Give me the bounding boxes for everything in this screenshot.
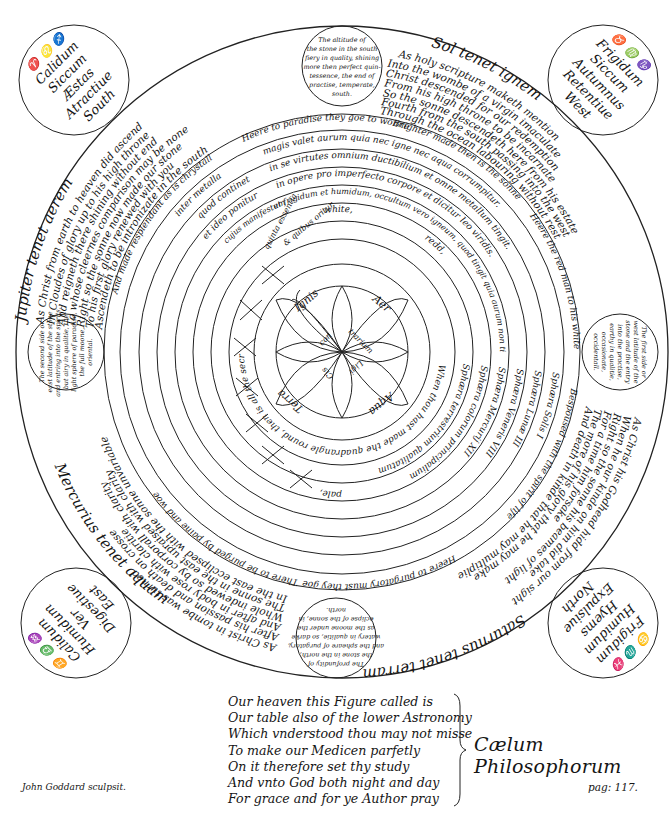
- svg-text:and the spheare of purgatory,: and the spheare of purgatory,: [288, 642, 384, 650]
- svg-text:and entring into the spirits,: and entring into the spirits,: [54, 307, 62, 396]
- element-aqua: Aqua: [366, 389, 397, 418]
- page-number: pag: 117.: [588, 781, 638, 793]
- svg-text:as the moone under the: as the moone under the: [297, 624, 374, 632]
- svg-text:occidentall.: occidentall.: [592, 333, 600, 371]
- svg-text:north.: north.: [326, 606, 346, 614]
- svg-text:south.: south.: [332, 90, 352, 98]
- caelum-philosophorum-figure: Sol tenet ignem Jupiter tenet aerem Satu…: [0, 0, 670, 815]
- verse-band-lower-left: As Christ in tombe was turned After his …: [97, 435, 289, 655]
- svg-text:practise, temperate,: practise, temperate,: [309, 81, 375, 89]
- svg-text:occasionate,: occasionate,: [600, 332, 608, 372]
- figure-title: Cælum Philosophorum: [474, 733, 670, 777]
- svg-text:The first side or: The first side or: [640, 326, 648, 378]
- svg-text:the stone in the south: the stone in the south: [307, 45, 378, 53]
- element-terra: Terra: [275, 386, 306, 415]
- medallion-top: The altitude of the stone in the south f…: [302, 26, 382, 106]
- svg-text:more then perfect quin-: more then perfect quin-: [303, 63, 380, 71]
- corner-roundel-top-left: ♈ ♌ ♐ Calidum Siccum Æstas Atractiue Sou…: [19, 25, 129, 135]
- svg-text:Sphæra terrestrium qualitatum: Sphæra terrestrium qualitatum: [377, 363, 472, 476]
- verse-line: Which vnderstood thou may not misse: [228, 726, 472, 742]
- corner-roundel-bottom-right: ♋ ♏ ♓ Frigidum Humidum Hyems Expulsiue N…: [548, 568, 659, 679]
- svg-text:eclipse of the sonne, in: eclipse of the sonne, in: [299, 615, 374, 623]
- verse-line: Our table also of the lower Astronomy: [228, 710, 472, 726]
- svg-text:The profundity of: The profundity of: [306, 660, 364, 668]
- svg-text:the stone in the north,: the stone in the north,: [300, 651, 373, 659]
- svg-text:oriental.: oriental.: [86, 338, 94, 365]
- engraver-credit: John Goddard sculpsit.: [22, 782, 126, 792]
- svg-text:tessence, the end of: tessence, the end of: [310, 72, 377, 80]
- medallion-right: The first side or west latitude of the s…: [582, 314, 658, 390]
- verse-line: And vnto God both night and day: [228, 775, 472, 791]
- svg-text:the full moone,: the full moone,: [78, 328, 86, 377]
- svg-text:fiery in quality, shining: fiery in quality, shining: [304, 54, 379, 62]
- svg-text:into the practise,: into the practise,: [616, 324, 624, 379]
- svg-text:pale,: pale,: [319, 488, 342, 500]
- svg-text:east latitude of the stone: east latitude of the stone: [46, 311, 54, 392]
- svg-text:west latitude of the: west latitude of the: [632, 321, 640, 384]
- svg-text:but airy in qualitie, the: but airy in qualitie, the: [62, 314, 70, 389]
- curly-brace: [448, 692, 468, 808]
- svg-text:watery in qualitie, so darke: watery in qualitie, so darke: [291, 633, 380, 641]
- corner-roundel-top-right: ♉ ♍ ♑ Frigidum Siccum Autumnus Retentiue…: [548, 23, 659, 135]
- verse-line: For grace and for ye Author pray: [228, 791, 472, 807]
- element-aer: Aer: [369, 292, 394, 316]
- saturnus-label: Saturnus tenet terram: [357, 607, 532, 696]
- four-elements-rosette: Ignis Aer Terra Aqua con trarium Cis Lig…: [275, 286, 408, 418]
- verse-line: On it therefore set thy study: [228, 759, 472, 775]
- svg-text:The altitude of: The altitude of: [318, 36, 367, 44]
- verse-caption: Our heaven this Figure called is Our tab…: [228, 694, 472, 807]
- svg-text:Heere to purgatory must they g: Heere to purgatory must they goe: [302, 553, 459, 592]
- svg-text:stone and the entry: stone and the entry: [624, 320, 632, 384]
- svg-text:The second side or: The second side or: [38, 321, 46, 383]
- verse-line: Our heaven this Figure called is: [228, 694, 472, 710]
- svg-text:earthy in qualitie,: earthy in qualitie,: [608, 323, 616, 381]
- svg-text:light sphere of paradise,: light sphere of paradise,: [70, 312, 78, 391]
- verse-line: To make our Medicen parfetly: [228, 743, 472, 759]
